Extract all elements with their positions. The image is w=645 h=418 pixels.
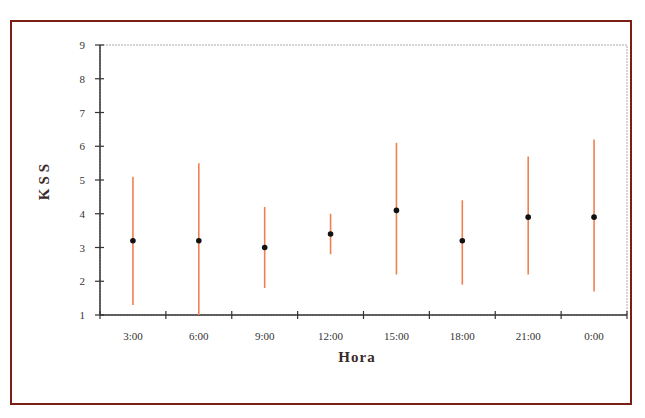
x-tick-label: 18:00 — [450, 330, 476, 342]
data-point-group — [591, 140, 597, 292]
y-tick-label: 5 — [80, 174, 86, 186]
mean-marker — [130, 238, 136, 244]
y-tick-label: 1 — [80, 309, 86, 321]
data-point-group — [130, 177, 136, 305]
mean-marker — [525, 214, 531, 220]
y-tick-label: 9 — [80, 39, 86, 51]
x-axis-title: Hora — [338, 349, 375, 365]
y-tick-label: 2 — [80, 275, 86, 287]
y-axis-title: KSS — [36, 160, 52, 200]
x-axis: 3:006:009:0012:0015:0018:0021:000:00 — [100, 311, 627, 342]
data-point-group — [460, 200, 466, 284]
mean-marker — [394, 208, 400, 214]
x-tick-label: 9:00 — [255, 330, 275, 342]
x-tick-label: 0:00 — [584, 330, 604, 342]
y-tick-label: 3 — [80, 242, 86, 254]
y-tick-label: 7 — [80, 107, 86, 119]
plot-area — [100, 45, 627, 315]
data-point-group — [262, 207, 268, 288]
mean-marker — [196, 238, 202, 244]
data-series — [130, 140, 597, 316]
data-point-group — [196, 163, 202, 315]
data-point-group — [394, 143, 400, 275]
y-tick-label: 6 — [80, 140, 86, 152]
error-bar-chart: 123456789 3:006:009:0012:0015:0018:0021:… — [0, 0, 645, 418]
x-tick-label: 12:00 — [318, 330, 344, 342]
data-point-group — [328, 214, 334, 255]
mean-marker — [262, 245, 268, 251]
mean-marker — [328, 231, 334, 237]
y-tick-label: 8 — [80, 73, 86, 85]
data-point-group — [525, 156, 531, 274]
x-tick-label: 21:00 — [516, 330, 542, 342]
x-tick-label: 6:00 — [189, 330, 209, 342]
x-tick-label: 15:00 — [384, 330, 410, 342]
mean-marker — [460, 238, 466, 244]
x-tick-label: 3:00 — [123, 330, 143, 342]
mean-marker — [591, 214, 597, 220]
y-tick-label: 4 — [80, 208, 86, 220]
y-axis: 123456789 — [80, 39, 105, 321]
